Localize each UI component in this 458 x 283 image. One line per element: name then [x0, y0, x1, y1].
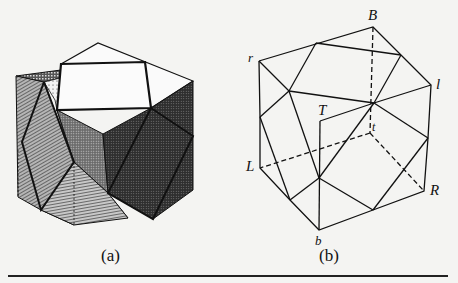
label-B: B — [368, 7, 377, 24]
edge — [259, 61, 289, 91]
edge — [316, 43, 401, 55]
edge — [319, 121, 320, 230]
hidden-edges — [260, 27, 424, 191]
edge — [260, 91, 289, 117]
edge — [289, 91, 319, 178]
caption-b: (b) — [319, 246, 339, 266]
caption-a: (a) — [101, 246, 120, 266]
figures-canvas — [0, 0, 458, 283]
edge — [289, 91, 374, 103]
label-L: L — [246, 158, 254, 175]
top-rectangle — [57, 62, 151, 110]
edge — [260, 117, 290, 200]
edge — [320, 103, 374, 121]
label-r: r — [248, 50, 253, 66]
figure-b — [259, 27, 431, 230]
outer-outline — [259, 27, 431, 230]
edge — [290, 178, 319, 200]
figure-a — [16, 43, 193, 225]
edge — [319, 178, 373, 210]
label-T: T — [318, 102, 326, 119]
horizontal-rule — [8, 275, 448, 277]
label-R: R — [430, 182, 439, 199]
edge — [374, 103, 428, 138]
label-t: t — [372, 120, 375, 135]
label-l: l — [436, 76, 440, 93]
